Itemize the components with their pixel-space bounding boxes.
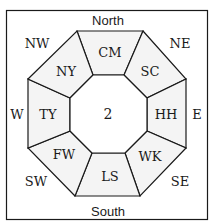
sector-nw-label: NY: [56, 64, 76, 79]
sector-n-label: CM: [98, 45, 121, 60]
label-northwest: NW: [25, 36, 50, 51]
sector-sw-label: FW: [53, 147, 76, 162]
sector-s-label: LS: [101, 169, 119, 184]
sector-w-label: TY: [39, 107, 57, 122]
label-northeast: NE: [170, 36, 191, 51]
label-west: W: [10, 107, 24, 122]
sector-e-label: HH: [155, 107, 178, 122]
label-north: North: [92, 13, 124, 28]
sector-se-label: WK: [138, 149, 161, 164]
center-label: 2: [104, 106, 113, 122]
label-east: E: [192, 107, 202, 122]
bagua-diagram: North South W E NW NE SW SE CM SC HH WK …: [0, 0, 213, 222]
label-south: South: [91, 204, 125, 219]
label-southwest: SW: [25, 174, 48, 189]
sector-ne-label: SC: [141, 64, 160, 79]
label-southeast: SE: [171, 174, 189, 189]
